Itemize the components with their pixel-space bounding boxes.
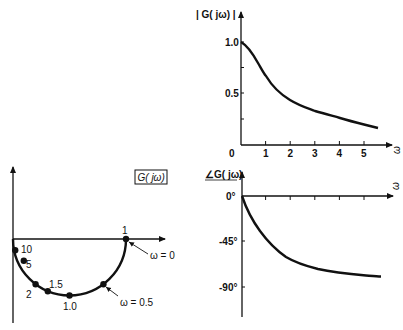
magnitude-ylabel: | G( jω) |	[196, 9, 236, 20]
label-point-1.5: 1.5	[49, 279, 63, 290]
magnitude-xlabel: ω	[391, 146, 402, 154]
phase-plot: ∠G( jω) 0° -45° -90° ω	[205, 169, 401, 317]
phase-ytick-label-45: -45°	[219, 236, 237, 247]
xtick-label-1: 1	[263, 148, 269, 159]
phase-ytick-label-90: -90°	[219, 282, 237, 293]
pointer-omega-0	[129, 242, 148, 254]
phase-curve	[242, 196, 381, 277]
label-point-1.0: 1.0	[63, 301, 77, 312]
label-omega-0: ω = 0	[150, 250, 175, 261]
xtick-label-4: 4	[337, 148, 343, 159]
magnitude-plot: | G( jω) | 1.0 0.5 0 1 2 3 4 5 ω	[196, 9, 402, 159]
ytick-label-0.5: 0.5	[225, 88, 239, 99]
label-point-5: 5	[26, 259, 32, 270]
xtick-label-0: 0	[229, 148, 235, 159]
phase-ylabel: ∠G( jω)	[205, 169, 242, 180]
nyquist-plot: 1 10 5 2 1.5 1.0 ω = 0 ω = 0.5 G( jω)	[12, 167, 175, 323]
ytick-label-1.0: 1.0	[225, 37, 239, 48]
xtick-label-2: 2	[288, 148, 294, 159]
phase-xlabel: ω	[390, 182, 401, 190]
xtick-label-3: 3	[312, 148, 318, 159]
label-point-1: 1	[122, 225, 128, 236]
pointer-omega-0.5	[106, 287, 118, 296]
point-omega-2	[32, 281, 38, 287]
xtick-label-5: 5	[361, 148, 367, 159]
point-omega-1.0	[66, 292, 72, 298]
point-omega-0.5	[100, 281, 106, 287]
magnitude-curve	[241, 42, 378, 128]
label-omega-0.5: ω = 0.5	[120, 297, 154, 308]
label-point-2: 2	[26, 289, 32, 300]
point-omega-0	[123, 236, 129, 242]
point-omega-10	[12, 247, 18, 253]
label-point-10: 10	[21, 244, 33, 255]
phase-ytick-label-0: 0°	[226, 191, 236, 202]
nyquist-title: G( jω)	[138, 172, 165, 183]
figure-canvas: 1 10 5 2 1.5 1.0 ω = 0 ω = 0.5 G( jω) | …	[0, 0, 403, 330]
